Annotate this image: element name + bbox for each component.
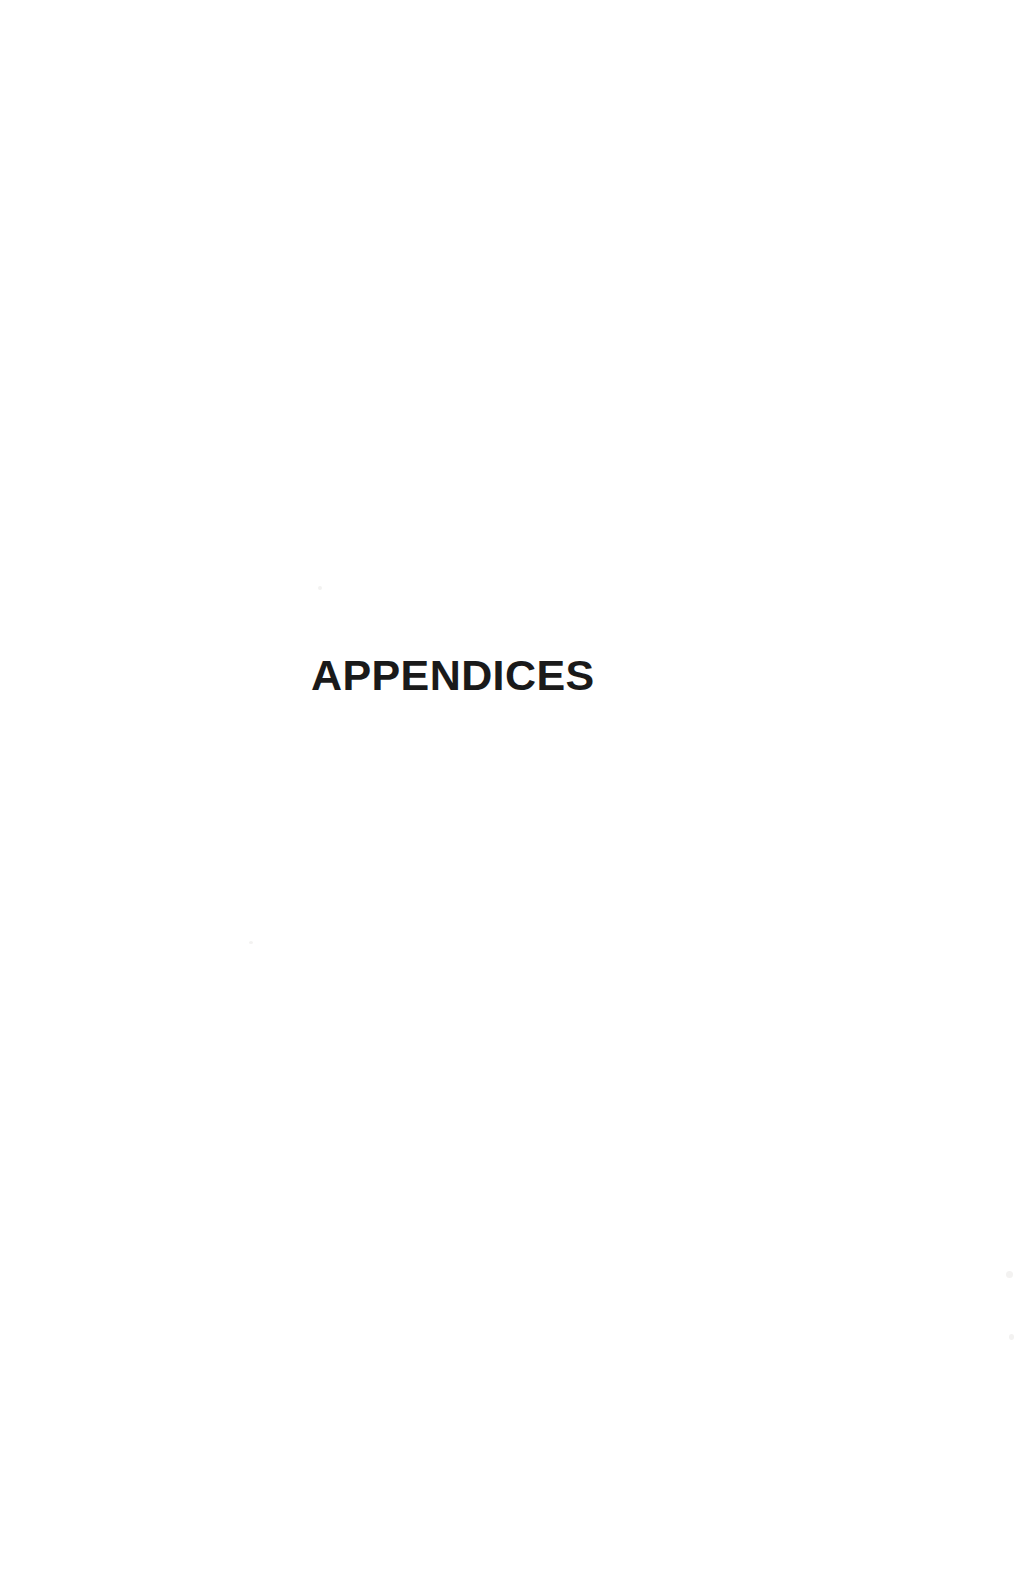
document-page: APPENDICES <box>0 0 1022 1579</box>
section-heading-block: APPENDICES <box>0 640 1022 710</box>
page-top-blank-area <box>0 0 1022 640</box>
page-bottom-blank-area <box>0 710 1022 1579</box>
page-title: APPENDICES <box>311 640 595 710</box>
